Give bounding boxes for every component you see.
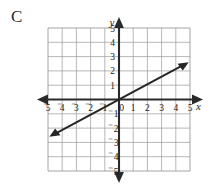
- x-tick--5: ⁻ 5: [43, 101, 51, 113]
- x-tick--2: ⁻ 2: [85, 101, 93, 113]
- svg-text:⁻: ⁻: [108, 108, 113, 118]
- y-tick-label: 4: [114, 152, 119, 162]
- y-tick-label: 5: [110, 24, 115, 34]
- svg-text:⁻: ⁻: [108, 150, 113, 160]
- y-tick-label: 1: [110, 81, 115, 91]
- svg-text:⁻: ⁻: [108, 122, 113, 132]
- y-tick-label: 4: [110, 38, 115, 48]
- origin-tick-label: 0: [119, 103, 124, 113]
- y-tick--5: ⁻ 5: [108, 165, 119, 177]
- y-tick-label: 3: [114, 138, 119, 148]
- x-axis-positive-tick-labels: 1 2 3 4 5: [131, 103, 193, 113]
- coordinate-plane-svg: y x 0 ⁻ 5 ⁻ 4 ⁻ 3 ⁻ 2 ⁻ 1: [0, 0, 211, 187]
- x-tick-label: 5: [188, 103, 193, 113]
- y-tick--4: ⁻ 4: [108, 150, 119, 162]
- x-tick-label: 2: [88, 103, 93, 113]
- x-tick-label: 3: [74, 103, 79, 113]
- x-tick--3: ⁻ 3: [71, 101, 79, 113]
- y-tick--2: ⁻ 2: [108, 122, 119, 134]
- svg-text:⁻: ⁻: [108, 136, 113, 146]
- x-tick--4: ⁻ 4: [57, 101, 65, 113]
- x-tick-label: 5: [46, 103, 51, 113]
- y-tick--1: ⁻ 1: [108, 108, 119, 120]
- x-tick-label: 1: [131, 103, 136, 113]
- y-tick-label: 2: [114, 124, 119, 134]
- x-tick-label: 1: [102, 103, 107, 113]
- x-tick-label: 2: [145, 103, 150, 113]
- x-tick-label: 3: [159, 103, 164, 113]
- svg-text:⁻: ⁻: [108, 165, 113, 175]
- graph-figure: C: [0, 0, 211, 187]
- x-tick-label: 4: [60, 103, 65, 113]
- y-tick--3: ⁻ 3: [108, 136, 119, 148]
- panel-letter-label: C: [11, 8, 22, 25]
- y-tick-label: 1: [114, 109, 119, 119]
- y-axis-negative-tick-labels: ⁻ 1 ⁻ 2 ⁻ 3 ⁻ 4 ⁻ 5: [108, 108, 119, 177]
- y-tick-label: 3: [110, 52, 115, 62]
- x-tick-label: 4: [173, 103, 178, 113]
- x-tick--1: ⁻ 1: [99, 101, 107, 113]
- y-tick-label: 2: [110, 66, 115, 76]
- x-axis-label: x: [195, 100, 201, 112]
- y-axis-positive-tick-labels: 5 4 3 2 1: [110, 24, 115, 91]
- y-tick-label: 5: [114, 167, 119, 177]
